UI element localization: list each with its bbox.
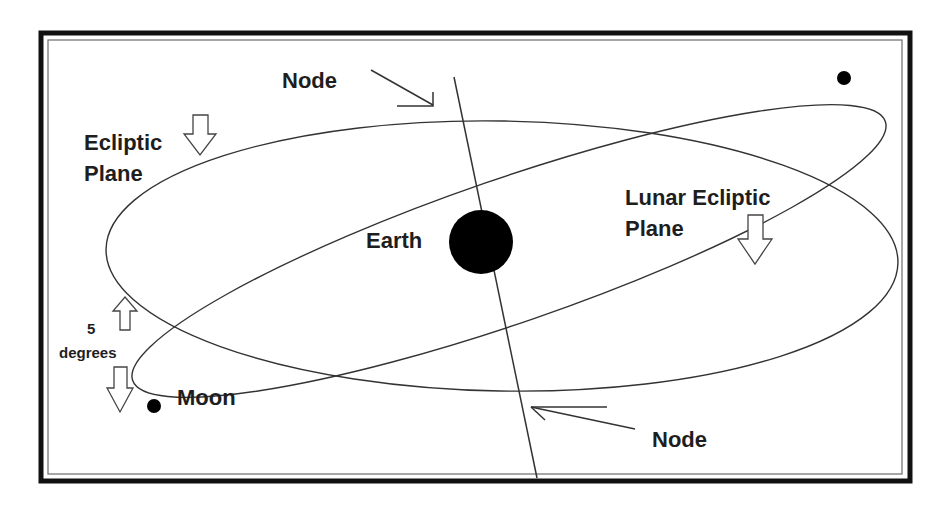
moon-body [147,399,161,413]
ecliptic-label-line2: Plane [84,161,143,186]
inclination-down-arrow-icon [107,367,133,412]
node-top-label: Node [282,68,337,93]
node-bottom-label: Node [652,427,707,452]
inclination-up-arrow-icon [113,297,137,330]
lunar-ecliptic-label-line1: Lunar Ecliptic [625,185,770,210]
ecliptic-label-line1: Ecliptic [84,130,162,155]
earth-body [449,210,513,274]
node-bottom-pointer-icon [531,407,635,429]
inclination-value-label: 5 [87,320,95,337]
earth-label: Earth [366,228,422,253]
ecliptic-down-arrow-icon [184,115,216,155]
lunar-orbit-diagram: Node Node Ecliptic Plane Lunar Ecliptic … [0,0,949,508]
inclination-unit-label: degrees [59,344,117,361]
lunar-ecliptic-label-line2: Plane [625,216,684,241]
node-top-pointer-icon [371,70,433,106]
line-of-nodes [454,77,537,478]
lunar-down-arrow-icon [738,215,772,264]
moon-label: Moon [177,385,236,410]
moon-opposite-body [837,71,851,85]
